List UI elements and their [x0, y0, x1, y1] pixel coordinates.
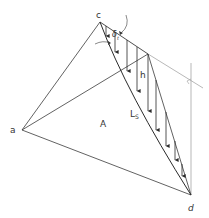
label-point-a: a [10, 125, 16, 135]
label-height: h [140, 70, 146, 80]
right-angle-marker [187, 79, 191, 84]
wedge-diagram: c a d A h LS δt [0, 0, 209, 218]
label-point-c: c [96, 10, 101, 20]
edge-b-d [148, 54, 191, 195]
label-angle: δt [112, 30, 120, 41]
edge-c-a [22, 22, 100, 130]
top-face [100, 22, 148, 54]
slip-surface-curve [100, 22, 191, 195]
angle-arc-upper [121, 15, 127, 33]
angle-arc-lower [95, 42, 110, 44]
load-arrows [106, 26, 182, 176]
label-length: LS [130, 109, 139, 120]
label-area: A [100, 119, 107, 129]
label-point-d: d [188, 203, 194, 213]
